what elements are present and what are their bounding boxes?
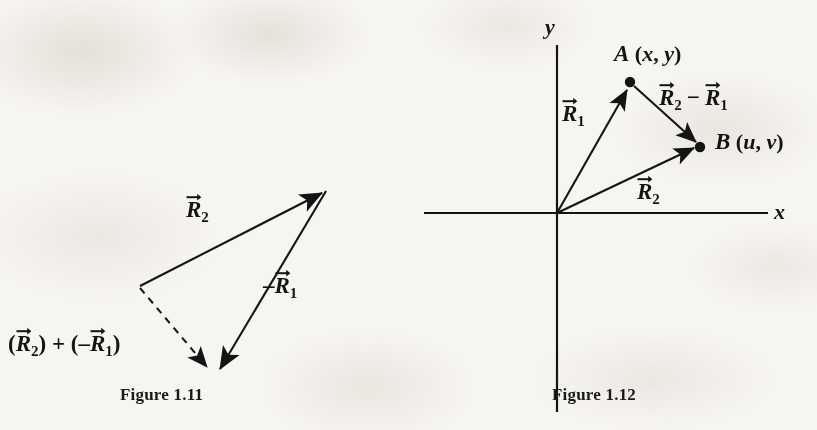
vector-overbar-arrow-icon [659,81,674,89]
point-b-label: B (u, v) [715,130,784,153]
label-r-subscript: 2 [201,209,209,225]
figure-page: R 2 – R 1 ( R 2) + (– R 1) Figure 1.11 [0,0,817,430]
point-a-x: x [642,41,653,66]
vector-r2-shaft-fig112 [557,148,694,213]
label-r-subscript: 1 [577,113,585,129]
vector-overbar-arrow-icon [16,327,31,335]
vector-overbar-arrow-icon [705,81,720,89]
point-a-comma: , [653,41,664,66]
axis-label-x: x [774,201,785,223]
label-vector-neg-r1-fig111: – R 1 [263,272,297,301]
point-b-name: B [715,129,730,154]
point-b-u: u [743,129,755,154]
point-a-paren-close: ) [674,41,681,66]
label-r-subscript: 1 [720,97,728,113]
point-a-y: y [664,41,674,66]
label-r-subscript: 2 [31,343,39,359]
point-a-coords: ( [629,41,642,66]
label-vector-difference-fig112: R 2− R 1 [659,84,728,113]
vector-overbar-arrow-icon [186,193,201,201]
vector-overbar-arrow-icon [90,327,105,335]
figure-caption-1-12: Figure 1.12 [552,385,636,405]
point-b-dot [695,142,705,152]
label-r-subscript: 2 [674,97,682,113]
paren-close-2: ) [113,331,121,356]
figure-1-11-canvas [0,0,817,430]
label-r-subscript: 1 [105,343,113,359]
label-r-subscript: 2 [652,191,660,207]
label-resultant-sum-fig111: ( R 2) + (– R 1) [8,330,120,359]
vector-overbar-arrow-icon [637,175,652,183]
figure-caption-1-11: Figure 1.11 [120,385,203,405]
label-vector-r1-fig112: R 1 [562,100,585,129]
label-minus-sign: – [263,273,275,298]
label-vector-r2-fig111: R 2 [186,196,209,225]
point-b-comma: , [755,129,766,154]
point-a-dot [625,77,635,87]
point-a-label: A (x, y) [614,42,681,65]
label-minus-sign: – [78,331,90,356]
paren-open-1: ( [8,331,16,356]
point-b-paren-open: ( [730,129,743,154]
vector-overbar-arrow-icon [275,269,290,277]
axis-label-y: y [545,16,555,38]
vector-resultant-dashed-fig111 [140,288,207,367]
point-b-v: v [766,129,776,154]
point-b-paren-close: ) [776,129,783,154]
vector-overbar-arrow-icon [562,97,577,105]
sum-operator: ) + ( [39,331,79,356]
label-vector-r2-fig112: R 2 [637,178,660,207]
point-a-name: A [614,41,629,66]
difference-operator: − [687,85,700,110]
label-r-subscript: 1 [290,285,298,301]
